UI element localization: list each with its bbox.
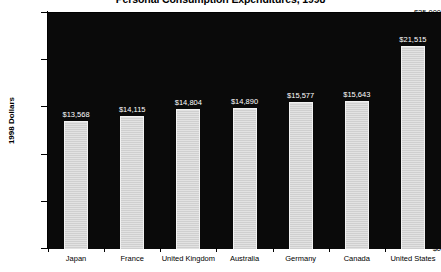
x-axis-tick <box>385 248 386 252</box>
x-axis-label-japan: Japan <box>66 254 86 263</box>
x-axis-label-australia: Australia <box>230 254 259 263</box>
bar-value-label: $14,890 <box>231 97 258 106</box>
bar-united-states <box>401 46 425 249</box>
x-axis-tick <box>160 248 161 252</box>
bar-chart: Personal Consumption Expenditures, 1998 … <box>0 0 441 272</box>
x-axis-label-united-states: United States <box>390 254 435 263</box>
x-axis-tick <box>329 248 330 252</box>
y-axis-tick <box>41 59 47 60</box>
x-axis-label-canada: Canada <box>344 254 370 263</box>
x-axis-tick <box>273 248 274 252</box>
x-axis-label-france: France <box>121 254 144 263</box>
bar-united-kingdom <box>176 109 200 249</box>
x-axis-tick <box>48 248 49 252</box>
x-axis-label-germany: Germany <box>285 254 316 263</box>
bar-germany <box>289 102 313 249</box>
bar-canada <box>345 101 369 249</box>
plot-area: $13,568$14,115$14,804$14,890$15,577$15,6… <box>48 12 441 249</box>
y-axis-tick <box>41 106 47 107</box>
bar-value-label: $15,577 <box>287 91 314 100</box>
bar-value-label: $21,515 <box>399 35 426 44</box>
bar-value-label: $14,804 <box>175 98 202 107</box>
bar-value-label: $14,115 <box>119 105 146 114</box>
y-axis-tick <box>41 12 47 13</box>
bars-container: $13,568$14,115$14,804$14,890$15,577$15,6… <box>48 13 441 249</box>
bar-value-label: $15,643 <box>343 90 370 99</box>
bar-australia <box>233 108 257 249</box>
y-axis-tick <box>41 201 47 202</box>
bar-value-label: $13,568 <box>63 110 90 119</box>
bar-france <box>120 116 144 249</box>
bottom-caption-clip <box>0 265 441 272</box>
chart-title: Personal Consumption Expenditures, 1998 <box>0 0 441 5</box>
x-axis-tick <box>104 248 105 252</box>
x-axis-label-united-kingdom: United Kingdom <box>162 254 215 263</box>
y-axis-title: 1998 Dollars <box>7 82 16 160</box>
x-axis-tick <box>216 248 217 252</box>
y-axis-tick <box>41 154 47 155</box>
bar-japan <box>64 121 88 249</box>
y-axis-tick <box>41 248 47 249</box>
